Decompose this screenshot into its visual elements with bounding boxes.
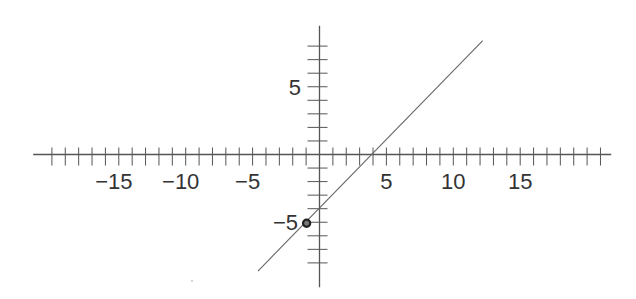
- x-tick-label: −5: [235, 169, 260, 194]
- x-tick-label: −15: [95, 169, 132, 194]
- x-axis: [33, 148, 611, 166]
- y-axis: [308, 26, 328, 288]
- x-tick-label: −10: [162, 169, 199, 194]
- x-tick-label: 5: [380, 169, 392, 194]
- plotted-points: [303, 220, 310, 227]
- x-tick-label: 10: [441, 169, 465, 194]
- speck-artifact: [191, 280, 193, 282]
- point-marker: [303, 220, 310, 227]
- y-tick-label: 5: [289, 75, 301, 100]
- x-tick-label: 15: [508, 169, 532, 194]
- coordinate-plane: −15−10−551015 5−5: [0, 0, 636, 299]
- y-tick-label: −5: [273, 210, 298, 235]
